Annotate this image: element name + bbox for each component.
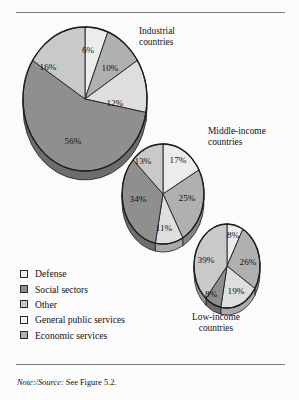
caption-line-2: countries <box>208 137 242 147</box>
bottom-rule <box>16 364 285 365</box>
legend-item-social-sectors[interactable]: Social sectors <box>20 281 125 296</box>
figure-container: 6%10%12%56%16%17%25%11%34%13%8%26%19%8%3… <box>0 0 299 400</box>
legend-item-label: Other <box>35 299 57 310</box>
legend-item-label: General public services <box>35 314 125 325</box>
legend-item-defense[interactable]: Defense <box>20 266 125 281</box>
slice-value-label: 11% <box>156 223 173 233</box>
legend-item-other[interactable]: Other <box>20 297 125 312</box>
slice-value-label: 56% <box>65 136 82 146</box>
slice-value-label: 13% <box>135 156 152 166</box>
note-prefix: Note:/Source: <box>17 378 64 387</box>
note-text: See Figure 5.2. <box>64 378 117 387</box>
legend-item-general-public-services[interactable]: General public services <box>20 312 125 327</box>
caption-line-2: countries <box>199 323 233 333</box>
legend: DefenseSocial sectorsOtherGeneral public… <box>20 266 125 343</box>
legend-item-label: Social sectors <box>35 284 88 295</box>
caption-line-1: Industrial <box>139 26 175 36</box>
legend-item-label: Defense <box>35 268 66 279</box>
legend-swatch-icon <box>20 270 28 278</box>
slice-value-label: 8% <box>227 230 239 240</box>
slice-value-label: 17% <box>170 155 187 165</box>
caption-low-income-countries: Low-income countries <box>192 312 240 335</box>
legend-item-economic-services[interactable]: Economic services <box>20 328 125 343</box>
caption-line-1: Middle-income <box>208 126 266 136</box>
slice-value-label: 39% <box>198 255 215 265</box>
caption-industrial-countries: Industrial countries <box>139 26 175 49</box>
caption-line-2: countries <box>139 37 173 47</box>
slice-value-label: 12% <box>107 98 124 108</box>
slice-value-label: 34% <box>130 194 147 204</box>
legend-swatch-icon <box>20 285 28 293</box>
slice-value-label: 19% <box>228 286 245 296</box>
slice-value-label: 10% <box>102 63 119 73</box>
slice-value-label: 26% <box>240 257 257 267</box>
slice-value-label: 8% <box>205 289 217 299</box>
slice-value-label: 6% <box>82 45 94 55</box>
legend-swatch-icon <box>20 331 28 339</box>
legend-swatch-icon <box>20 300 28 308</box>
legend-swatch-icon <box>20 316 28 324</box>
legend-item-label: Economic services <box>35 330 107 341</box>
slice-value-label: 16% <box>40 62 57 72</box>
figure-note: Note:/Source: See Figure 5.2. <box>17 378 116 387</box>
caption-line-1: Low-income <box>192 312 240 322</box>
slice-value-label: 25% <box>179 193 196 203</box>
caption-middle-income-countries: Middle-income countries <box>208 126 266 149</box>
